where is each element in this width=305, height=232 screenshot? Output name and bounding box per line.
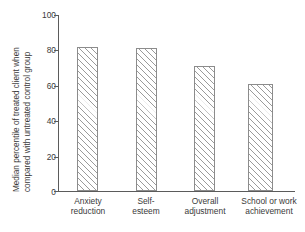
y-tick-label-40: 40	[32, 117, 56, 125]
y-tick-label-0: 0	[32, 188, 56, 196]
x-label-line-1: School or work	[232, 196, 305, 206]
bar-series	[58, 15, 295, 192]
y-axis-title: Median percentile of treated client when…	[0, 0, 30, 200]
x-label-line-1: Overall	[171, 196, 239, 206]
x-label-anxiety-reduction: Anxiety reduction	[55, 196, 121, 216]
bar-self-esteem	[136, 48, 157, 191]
y-axis-tick-labels: 100 80 60 40 20 0	[30, 0, 56, 232]
y-tick-label-60: 60	[32, 82, 56, 90]
x-label-self-esteem: Self- esteem	[115, 196, 177, 216]
x-label-line-2: achievement	[232, 206, 305, 216]
x-label-line-2: reduction	[55, 206, 121, 216]
plot-area	[58, 15, 295, 192]
y-tick-label-80: 80	[32, 46, 56, 54]
bar-school-or-work-achievement	[248, 84, 273, 191]
bar-overall-adjustment	[194, 66, 215, 191]
x-label-school-or-work-achievement: School or work achievement	[232, 196, 305, 216]
x-label-line-1: Self-	[115, 196, 177, 206]
y-tick-label-100: 100	[32, 11, 56, 19]
x-label-line-2: adjustment	[171, 206, 239, 216]
bar-anxiety-reduction	[77, 47, 98, 191]
y-tick-label-20: 20	[32, 153, 56, 161]
x-label-line-2: esteem	[115, 206, 177, 216]
y-axis-title-line-1: Median percentile of treated client when	[12, 47, 21, 192]
x-label-overall-adjustment: Overall adjustment	[171, 196, 239, 216]
x-label-line-1: Anxiety	[55, 196, 121, 206]
bar-chart-figure: Median percentile of treated client when…	[0, 0, 305, 232]
x-axis-category-labels: Anxiety reduction Self- esteem Overall a…	[58, 196, 298, 232]
